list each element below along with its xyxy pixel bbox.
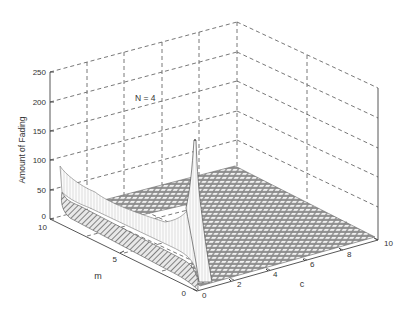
z-tick-250: 250 — [33, 68, 47, 77]
c-tick-2: 2 — [237, 280, 242, 289]
z-tick-50: 50 — [37, 186, 46, 195]
z-tick-0: 0 — [42, 212, 47, 221]
c-tick-4: 4 — [273, 270, 278, 279]
c-tick-0: 0 — [202, 291, 207, 300]
c-tick-10: 10 — [384, 239, 393, 248]
m-tick-0: 0 — [182, 289, 187, 298]
z-tick-200: 200 — [33, 98, 47, 107]
z-axis-label: Amount of Fading — [17, 116, 27, 183]
z-axis: 250 200 150 100 50 0 Amount of Fading — [17, 68, 54, 221]
m-tick-10: 10 — [38, 223, 47, 232]
m-axis-label: m — [94, 271, 102, 281]
m-tick-5: 5 — [113, 255, 118, 264]
c-tick-6: 6 — [310, 260, 315, 269]
z-tick-150: 150 — [33, 127, 47, 136]
c-axis-label: c — [300, 279, 305, 289]
c-tick-8: 8 — [347, 250, 352, 259]
surface-plot: 250 200 150 100 50 0 Amount of Fading 10… — [0, 0, 407, 313]
z-tick-100: 100 — [33, 156, 47, 165]
surface-mesh — [60, 140, 375, 290]
n-annotation: N = 4 — [135, 93, 156, 103]
